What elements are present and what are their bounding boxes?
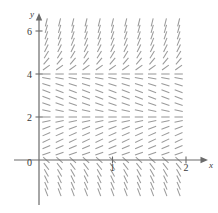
slope-segment <box>149 65 156 70</box>
slope-segment <box>57 163 62 170</box>
slope-segment <box>175 126 183 129</box>
slope-segment <box>83 65 90 70</box>
slope-segment <box>42 120 50 122</box>
slope-segment <box>148 78 156 79</box>
slope-segment <box>109 145 117 148</box>
slope-segment <box>55 120 63 122</box>
slope-segment <box>109 126 117 129</box>
slope-segment <box>122 78 130 79</box>
slope-segment <box>162 139 170 143</box>
slope-segment <box>69 96 77 99</box>
slope-segment <box>43 65 50 70</box>
slope-segment <box>175 83 183 86</box>
slope-segment <box>148 83 156 86</box>
slope-segment <box>56 152 64 155</box>
slope-segment <box>109 139 117 143</box>
slope-segment <box>175 120 183 122</box>
slope-segment <box>43 133 51 136</box>
y-axis-arrow-icon <box>36 13 42 21</box>
slope-segment <box>122 96 130 99</box>
slope-segment <box>95 139 103 143</box>
slope-segment <box>175 96 183 99</box>
slope-segment <box>42 83 50 86</box>
slope-segment <box>44 163 49 170</box>
slope-segment <box>82 145 90 148</box>
slope-segment <box>55 110 63 112</box>
slope-segment <box>69 120 77 122</box>
slope-segment <box>161 120 169 122</box>
slope-segment <box>161 96 169 99</box>
x-axis-tick-label: 1 <box>110 162 115 173</box>
slope-segment <box>136 58 141 64</box>
slope-segment <box>123 58 128 64</box>
slope-segment <box>163 58 168 64</box>
slope-segment <box>56 139 64 143</box>
slope-segment <box>82 110 90 112</box>
slope-segment <box>148 145 156 148</box>
slope-segment <box>161 103 169 106</box>
slope-segment <box>95 133 103 136</box>
slope-segment <box>69 152 77 155</box>
slope-segment <box>161 78 169 79</box>
slope-segment <box>42 78 50 79</box>
slope-segment <box>162 133 170 136</box>
slope-segment <box>122 126 130 129</box>
slope-segment <box>135 126 143 129</box>
slope-segment <box>56 126 64 129</box>
slope-segment <box>176 51 180 58</box>
slope-segment <box>122 120 130 122</box>
slope-segment <box>122 139 130 143</box>
slope-segment <box>122 103 130 106</box>
slope-segment <box>162 65 169 70</box>
slope-segment <box>176 163 181 170</box>
slope-segment <box>135 90 143 93</box>
slope-segment <box>109 90 117 93</box>
slope-segment <box>95 145 103 148</box>
slope-segment <box>56 83 64 86</box>
slope-segment <box>43 145 51 148</box>
slope-segment <box>82 133 90 136</box>
slope-segment <box>56 103 64 106</box>
slope-segment <box>95 126 103 129</box>
slope-segment <box>149 58 154 64</box>
slope-segment <box>161 90 169 93</box>
slope-segment <box>108 120 116 122</box>
slope-segment <box>161 110 169 112</box>
slope-segment <box>136 65 143 70</box>
slope-segment <box>108 78 116 79</box>
slope-segment <box>56 90 64 93</box>
x-axis-tick-label: 2 <box>184 162 189 173</box>
slope-segment <box>82 139 90 143</box>
slope-segment <box>70 58 75 64</box>
slope-segment <box>163 51 167 58</box>
slope-segment <box>135 78 143 79</box>
slope-segment <box>96 65 103 70</box>
slope-segment <box>42 103 50 106</box>
slope-segment <box>161 152 169 155</box>
slope-segment <box>95 103 103 106</box>
slope-segment <box>42 90 50 93</box>
slope-segment <box>148 90 156 93</box>
slope-segment <box>175 103 183 106</box>
slope-segment <box>69 83 77 86</box>
slope-segment <box>42 96 50 99</box>
slope-segment <box>135 103 143 106</box>
slope-segment <box>84 163 89 170</box>
slope-segment <box>82 152 90 155</box>
slope-segment <box>175 152 183 155</box>
slope-segment <box>109 152 117 155</box>
slope-segment <box>109 96 117 99</box>
slope-segment <box>69 90 77 93</box>
slope-segment <box>148 96 156 99</box>
slope-segment <box>69 110 77 112</box>
slope-segment <box>148 110 156 112</box>
slope-segment <box>71 51 75 58</box>
slope-segment <box>97 58 102 64</box>
slope-segment <box>95 120 103 122</box>
slope-segment <box>175 78 183 79</box>
slope-segment <box>135 133 143 136</box>
slope-segment <box>44 58 49 64</box>
slope-segment <box>97 51 101 58</box>
slope-segment <box>82 96 90 99</box>
slope-segment <box>163 163 168 170</box>
